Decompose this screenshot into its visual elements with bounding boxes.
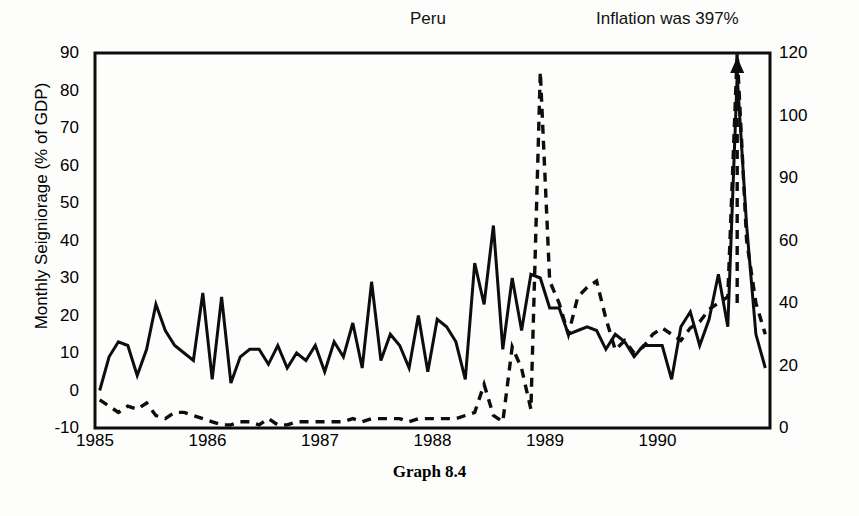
series-line-inflation — [100, 53, 766, 425]
figure-caption: Graph 8.4 — [0, 462, 859, 482]
series-line-seigniorage — [100, 76, 766, 391]
plot-area — [0, 0, 859, 516]
chart-figure: Peru Inflation was 397% Monthly Seignior… — [0, 0, 859, 516]
